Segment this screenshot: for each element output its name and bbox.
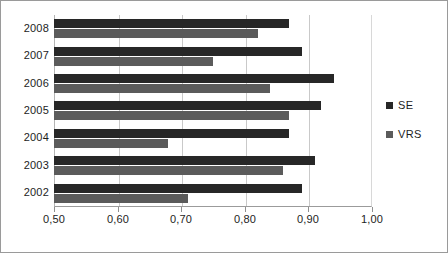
bar-vrs-2004 [54,139,168,148]
bar-se-2007 [54,47,302,56]
x-axis-tick [308,207,309,212]
y-axis-label-2008: 2008 [5,22,49,34]
legend-swatch-icon [386,102,393,109]
y-axis-label-2002: 2002 [5,186,49,198]
bar-vrs-2003 [54,166,283,175]
x-axis-tick-label: 0,70 [159,213,203,225]
bar-vrs-2008 [54,29,258,38]
bar-se-2004 [54,129,289,138]
legend-label: VRS [398,128,422,140]
x-axis-tick-label: 0,60 [96,213,140,225]
bar-vrs-2002 [54,194,188,203]
bar-se-2005 [54,101,321,110]
y-axis-label-2005: 2005 [5,104,49,116]
y-axis-label-2006: 2006 [5,77,49,89]
legend-label: SE [398,99,413,111]
bar-se-2008 [54,19,289,28]
x-axis-tick-label: 0,50 [32,213,76,225]
chart-container: 2008200720062005200420032002 0,500,600,7… [0,0,448,253]
x-axis-tick [118,207,119,212]
bar-vrs-2007 [54,57,213,66]
x-axis-tick [181,207,182,212]
legend-item-vrs[interactable]: VRS [386,128,444,140]
x-axis-tick-label: 0,80 [223,213,267,225]
x-axis-tick-label: 0,90 [286,213,330,225]
chart-legend: SEVRS [386,99,444,157]
y-axis-label-2004: 2004 [5,131,49,143]
x-axis-tick [372,207,373,212]
bar-vrs-2006 [54,84,270,93]
legend-item-se[interactable]: SE [386,99,444,111]
legend-swatch-icon [386,131,393,138]
x-axis-tick-label: 1,00 [350,213,394,225]
bar-vrs-2005 [54,111,289,120]
y-axis-label-2007: 2007 [5,49,49,61]
bar-se-2006 [54,74,334,83]
bar-se-2003 [54,156,315,165]
y-axis-label-2003: 2003 [5,159,49,171]
x-axis-tick [245,207,246,212]
x-axis-tick [54,207,55,212]
gridline [309,15,310,206]
bar-se-2002 [54,184,302,193]
